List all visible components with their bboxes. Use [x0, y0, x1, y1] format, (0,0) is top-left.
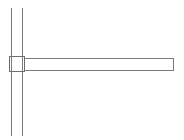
horizontal-beam	[25, 59, 174, 71]
t-joint-diagram	[0, 0, 184, 140]
